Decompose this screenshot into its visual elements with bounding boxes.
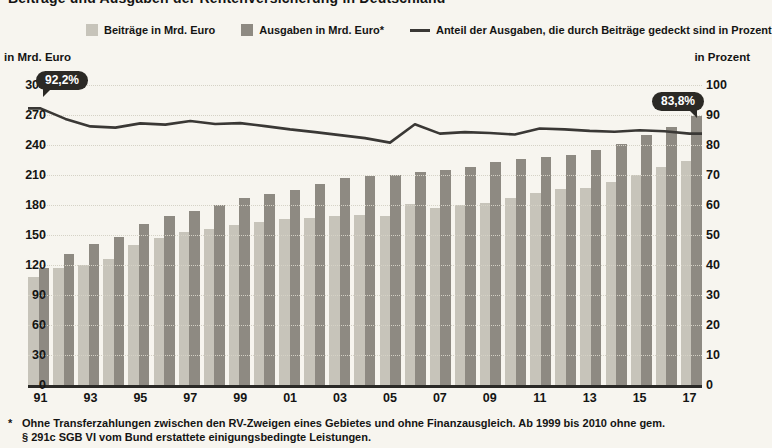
right-tick-20: 20 <box>706 318 752 332</box>
x-label-93: 93 <box>74 391 106 405</box>
bar-ausgaben-04 <box>365 176 376 385</box>
bar-ausgaben-99 <box>239 198 250 385</box>
bar-group-00 <box>254 194 275 385</box>
bar-group-11 <box>530 157 551 385</box>
legend-label: Ausgaben in Mrd. Euro* <box>259 24 384 36</box>
bar-group-95 <box>128 224 149 385</box>
bar-ausgaben-17 <box>691 116 702 385</box>
bar-beitraege-04 <box>354 215 365 385</box>
bar-ausgaben-95 <box>139 224 150 385</box>
legend-label: Anteil der Ausgaben, die durch Beiträge … <box>436 24 772 36</box>
bar-group-99 <box>229 198 250 385</box>
right-tick-0: 0 <box>706 378 752 392</box>
bar-beitraege-96 <box>154 238 165 385</box>
bar-group-06 <box>405 172 426 385</box>
bar-beitraege-05 <box>380 216 391 385</box>
chart-title: Beiträge und Ausgaben der Rentenversiche… <box>8 0 446 6</box>
bar-ausgaben-92 <box>64 254 75 385</box>
bar-beitraege-09 <box>480 203 491 385</box>
left-tick-150: 150 <box>0 228 46 242</box>
left-tick-90: 90 <box>0 288 46 302</box>
bar-beitraege-00 <box>254 222 265 385</box>
bar-group-13 <box>580 150 601 385</box>
bar-beitraege-94 <box>103 259 114 385</box>
bar-group-08 <box>455 167 476 385</box>
legend-swatch-light <box>86 24 98 36</box>
bar-group-10 <box>505 159 526 385</box>
legend-item-0: Beiträge in Mrd. Euro <box>86 24 215 36</box>
legend-label: Beiträge in Mrd. Euro <box>104 24 215 36</box>
x-label-91: 91 <box>24 391 56 405</box>
bar-ausgaben-05 <box>390 175 401 385</box>
left-tick-240: 240 <box>0 138 46 152</box>
footnote-line1: Ohne Transferzahlungen zwischen den RV-Z… <box>22 417 665 429</box>
right-tick-100: 100 <box>706 78 752 92</box>
x-label-09: 09 <box>474 391 506 405</box>
bar-beitraege-01 <box>279 219 290 385</box>
x-label-05: 05 <box>374 391 406 405</box>
right-tick-80: 80 <box>706 138 752 152</box>
x-label-15: 15 <box>624 391 656 405</box>
bar-group-07 <box>430 170 451 385</box>
right-tick-40: 40 <box>706 258 752 272</box>
gridline-300 <box>28 85 702 86</box>
x-label-95: 95 <box>124 391 156 405</box>
annotation-end: 83,8% <box>652 92 704 111</box>
gridline-60 <box>28 325 702 326</box>
x-label-17: 17 <box>674 391 706 405</box>
bar-ausgaben-96 <box>164 216 175 385</box>
right-tick-70: 70 <box>706 168 752 182</box>
bar-beitraege-95 <box>128 245 139 385</box>
bar-group-94 <box>103 237 124 385</box>
bar-ausgaben-06 <box>415 172 426 385</box>
gridline-240 <box>28 145 702 146</box>
x-label-99: 99 <box>224 391 256 405</box>
bar-group-17 <box>681 116 702 385</box>
gridline-180 <box>28 205 702 206</box>
left-tick-0: 0 <box>0 378 46 392</box>
left-tick-270: 270 <box>0 108 46 122</box>
legend-item-2: Anteil der Ausgaben, die durch Beiträge … <box>410 24 772 36</box>
bar-beitraege-15 <box>631 175 642 385</box>
x-label-01: 01 <box>274 391 306 405</box>
legend-swatch-dark <box>241 24 253 36</box>
bar-ausgaben-94 <box>114 237 125 385</box>
bar-group-16 <box>656 127 677 385</box>
right-tick-90: 90 <box>706 108 752 122</box>
gridline-120 <box>28 265 702 266</box>
gridline-270 <box>28 115 702 116</box>
bar-group-96 <box>154 216 175 385</box>
bar-ausgaben-00 <box>264 194 275 385</box>
left-axis-title: in Mrd. Euro <box>4 51 71 63</box>
footnote-line2: § 291c SGB VI vom Bund erstattete einigu… <box>22 430 750 444</box>
bar-ausgaben-03 <box>340 178 351 385</box>
bar-beitraege-99 <box>229 225 240 385</box>
bar-beitraege-97 <box>179 232 190 385</box>
right-tick-50: 50 <box>706 228 752 242</box>
bar-ausgaben-09 <box>490 162 501 385</box>
gridline-90 <box>28 295 702 296</box>
footnote: *Ohne Transferzahlungen zwischen den RV-… <box>8 416 750 444</box>
bar-ausgaben-08 <box>465 167 476 385</box>
bar-ausgaben-07 <box>440 170 451 385</box>
left-tick-120: 120 <box>0 258 46 272</box>
right-axis-title: in Prozent <box>694 51 750 63</box>
bar-group-97 <box>179 211 200 385</box>
bar-beitraege-10 <box>505 198 516 385</box>
gridline-210 <box>28 175 702 176</box>
bar-ausgaben-15 <box>641 135 652 385</box>
x-label-13: 13 <box>574 391 606 405</box>
bar-beitraege-92 <box>53 268 64 385</box>
legend: Beiträge in Mrd. EuroAusgaben in Mrd. Eu… <box>86 24 752 36</box>
gridline-150 <box>28 235 702 236</box>
bar-group-05 <box>380 175 401 385</box>
bar-beitraege-03 <box>329 216 340 385</box>
x-label-11: 11 <box>524 391 556 405</box>
right-tick-60: 60 <box>706 198 752 212</box>
right-tick-10: 10 <box>706 348 752 362</box>
bar-ausgaben-13 <box>591 150 602 385</box>
bar-ausgaben-11 <box>541 157 552 385</box>
bar-beitraege-16 <box>656 167 667 385</box>
bar-ausgaben-10 <box>516 159 527 385</box>
bar-beitraege-11 <box>530 193 541 385</box>
